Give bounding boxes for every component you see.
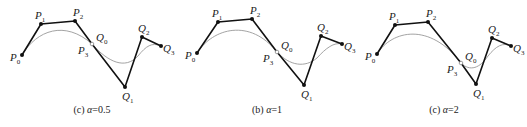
label-q1: Q1 xyxy=(301,88,313,103)
label-q0: Q0 xyxy=(96,31,108,46)
panel-2: P0P1P2P3Q0Q1Q2Q3(b) α=1 xyxy=(184,4,356,116)
panel-caption: (c) α=0.5 xyxy=(74,104,111,116)
label-q2: Q2 xyxy=(317,21,329,36)
label-p3: P3 xyxy=(262,52,274,67)
panel-caption: (b) α=1 xyxy=(252,104,282,116)
label-p0: P0 xyxy=(9,51,21,66)
control-polygon-q xyxy=(92,37,161,87)
control-polygon-p xyxy=(197,19,277,53)
label-p0: P0 xyxy=(184,49,196,64)
label-p0: P0 xyxy=(364,50,376,65)
label-q1: Q1 xyxy=(122,90,134,105)
label-q1: Q1 xyxy=(473,87,485,102)
control-polygon-p xyxy=(377,22,461,63)
control-point-p2 xyxy=(426,20,430,24)
joint-point-p3-q0 xyxy=(275,50,279,54)
control-point-p0 xyxy=(20,53,24,57)
control-point-p0 xyxy=(195,51,199,55)
joint-point-p3-q0 xyxy=(459,61,463,65)
figure-canvas: P0P1P2P3Q0Q1Q2Q3(c) α=0.5P0P1P2P3Q0Q1Q2Q… xyxy=(0,0,527,127)
label-p2: P2 xyxy=(425,7,437,22)
label-p1: P1 xyxy=(388,10,400,25)
panel-1: P0P1P2P3Q0Q1Q2Q3(c) α=0.5 xyxy=(9,6,175,116)
control-point-q1 xyxy=(123,85,127,89)
label-q3: Q3 xyxy=(513,42,525,57)
label-q0: Q0 xyxy=(465,50,477,65)
label-q3: Q3 xyxy=(344,40,356,55)
bezier-continuity-figure: P0P1P2P3Q0Q1Q2Q3(c) α=0.5P0P1P2P3Q0Q1Q2Q… xyxy=(0,0,527,127)
label-p1: P1 xyxy=(211,7,223,22)
control-point-q2 xyxy=(319,34,323,38)
panel-caption: (c) α=2 xyxy=(429,104,459,116)
bezier-curve-p xyxy=(197,30,277,53)
joint-point-p3-q0 xyxy=(90,42,94,46)
label-q2: Q2 xyxy=(138,22,150,37)
control-point-q2 xyxy=(490,36,494,40)
label-p3: P3 xyxy=(446,63,458,78)
control-point-p0 xyxy=(375,52,379,56)
label-p2: P2 xyxy=(72,6,84,21)
control-point-q1 xyxy=(302,83,306,87)
label-p2: P2 xyxy=(249,4,261,19)
label-p1: P1 xyxy=(34,9,46,24)
control-point-p2 xyxy=(73,19,77,23)
label-q3: Q3 xyxy=(163,42,175,57)
label-q2: Q2 xyxy=(488,23,500,38)
control-point-p2 xyxy=(250,17,254,21)
label-q0: Q0 xyxy=(281,39,293,54)
bezier-curve-q xyxy=(92,44,161,63)
label-p3: P3 xyxy=(77,44,89,59)
control-point-q2 xyxy=(140,35,144,39)
control-point-q1 xyxy=(474,82,478,86)
panel-3: P0P1P2P3Q0Q1Q2Q3(c) α=2 xyxy=(364,7,525,116)
